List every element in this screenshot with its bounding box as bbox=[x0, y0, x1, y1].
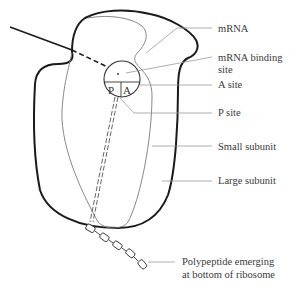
ribosome-diagram: P A mRNA mRNA binding site A site P site… bbox=[0, 0, 300, 294]
mrna-end-dot bbox=[117, 73, 119, 75]
p-site-letter: P bbox=[108, 84, 114, 96]
large-subunit-outline bbox=[34, 11, 198, 228]
label-small-subunit: Small subunit bbox=[218, 141, 276, 152]
label-large-subunit: Large subunit bbox=[218, 175, 276, 186]
label-polypeptide-line1: Polypeptide emerging bbox=[182, 256, 275, 267]
mrna-strand bbox=[10, 27, 72, 50]
a-site-letter: A bbox=[123, 84, 131, 96]
label-mrna: mRNA bbox=[218, 23, 249, 34]
label-p-site: P site bbox=[218, 107, 241, 118]
polypeptide-chain bbox=[85, 223, 147, 269]
channel-line-right bbox=[93, 97, 118, 222]
label-polypeptide-line2: at bottom of ribosome bbox=[182, 269, 275, 280]
small-subunit-outline bbox=[62, 16, 152, 228]
label-mrna-binding-site-line1: mRNA binding bbox=[218, 52, 283, 63]
label-mrna-binding-site-line2: site bbox=[218, 64, 233, 75]
channel-line-left bbox=[90, 97, 115, 222]
label-a-site: A site bbox=[218, 79, 243, 90]
